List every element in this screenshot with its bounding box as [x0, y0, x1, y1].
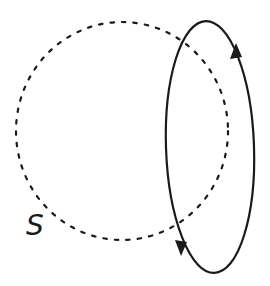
surface-s-dashed-circle	[16, 22, 228, 240]
arrow-down-icon	[175, 240, 187, 256]
oriented-loop-ellipse	[162, 20, 259, 275]
diagram-canvas	[0, 0, 270, 286]
surface-label: S	[26, 212, 44, 240]
